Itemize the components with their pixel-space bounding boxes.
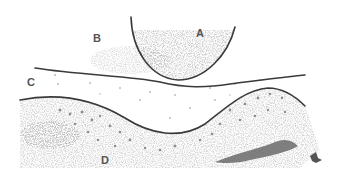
label-b: B — [93, 32, 101, 44]
label-d: D — [101, 154, 109, 166]
diagram: A B C D — [0, 0, 337, 176]
region-d-texture — [20, 88, 320, 173]
label-c: C — [27, 76, 35, 88]
region-b-texture — [90, 46, 170, 74]
label-a: A — [196, 27, 204, 39]
